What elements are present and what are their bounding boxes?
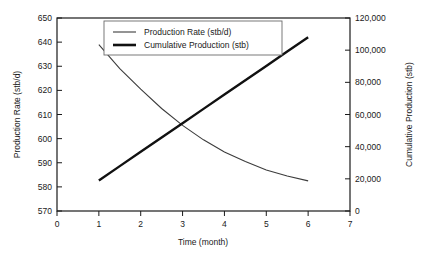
y2tick-label: 80,000 [355, 77, 381, 87]
xtick-label: 4 [222, 219, 227, 229]
y2tick-label: 100,000 [355, 45, 386, 55]
legend-label-cumulative-production: Cumulative Production (stb) [144, 40, 249, 50]
y2tick-label: 60,000 [355, 110, 381, 120]
chart-legend: Production Rate (stb/d) Cumulative Produ… [104, 21, 282, 55]
chart-container: 570 580 590 600 610 620 630 640 650 0 20… [0, 0, 429, 266]
y2tick-label: 20,000 [355, 174, 381, 184]
ytick-label: 590 [38, 158, 52, 168]
left-axis-tick-labels: 570 580 590 600 610 620 630 640 650 [38, 13, 52, 216]
xtick-label: 7 [348, 219, 353, 229]
xtick-label: 3 [180, 219, 185, 229]
ytick-label: 600 [38, 134, 52, 144]
xtick-label: 6 [306, 219, 311, 229]
x-axis-title: Time (month) [178, 237, 228, 247]
xtick-label: 0 [55, 219, 60, 229]
y2-axis-title: Cumulative Production (stb) [404, 62, 414, 167]
legend-label-production-rate: Production Rate (stb/d) [144, 27, 232, 37]
y2tick-label: 40,000 [355, 142, 381, 152]
right-axis-tick-labels: 0 20,000 40,000 60,000 80,000 100,000 12… [355, 13, 386, 216]
ytick-label: 580 [38, 182, 52, 192]
y2tick-label: 0 [355, 206, 360, 216]
xtick-label: 1 [96, 219, 101, 229]
ytick-label: 650 [38, 13, 52, 23]
x-axis-tick-labels: 0 1 2 3 4 5 6 7 [55, 219, 353, 229]
y-axis-title: Production Rate (stb/d) [12, 71, 22, 159]
ytick-label: 610 [38, 110, 52, 120]
y2tick-label: 120,000 [355, 13, 386, 23]
ytick-label: 620 [38, 85, 52, 95]
x-axis-ticks [57, 211, 350, 216]
ytick-label: 630 [38, 61, 52, 71]
right-axis-ticks [345, 18, 350, 211]
line-chart: 570 580 590 600 610 620 630 640 650 0 20… [0, 0, 429, 266]
series-line-cumulative-production [99, 37, 308, 180]
xtick-label: 2 [138, 219, 143, 229]
ytick-label: 570 [38, 206, 52, 216]
ytick-label: 640 [38, 37, 52, 47]
left-axis-ticks [57, 18, 62, 211]
xtick-label: 5 [264, 219, 269, 229]
